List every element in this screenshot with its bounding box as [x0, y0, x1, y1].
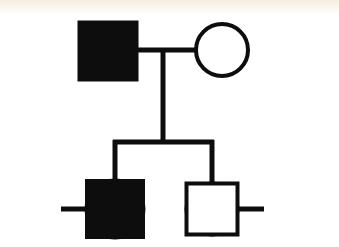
pedigree-canvas [0, 0, 339, 247]
pedigree-chart-figure [0, 0, 339, 247]
individual-male-unaffected-daughter-spouse[interactable] [187, 184, 238, 235]
individual-male-affected-son[interactable] [87, 181, 144, 238]
individual-male-affected-father[interactable] [79, 22, 137, 80]
individual-female-unaffected-mother[interactable] [196, 24, 248, 76]
generation-2-group [87, 181, 238, 238]
